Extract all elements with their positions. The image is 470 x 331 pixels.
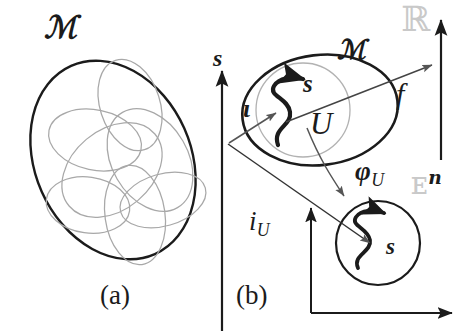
panel-b-caption: (b) [236, 282, 267, 309]
panel-b-f-label: f [396, 79, 404, 109]
panel-b-R-label: ℝ [401, 2, 430, 37]
panel-b-phiU-label: φU [355, 158, 384, 190]
panel-b-section-curve [273, 78, 303, 145]
phi-glyph: φ [355, 156, 371, 186]
panel-b-local-section-curve [355, 211, 384, 268]
panel-b-local-section-label: s [386, 235, 395, 258]
phi-subscript: U [371, 170, 384, 190]
diagram-vector-layer [0, 0, 470, 331]
euclidean-glyph: ᴇ [411, 165, 428, 201]
i-glyph: i [249, 206, 257, 236]
euclidean-superscript: n [428, 167, 442, 188]
panel-b-iota-label: ι [243, 96, 250, 122]
panel-b-chart-image-circle [336, 201, 420, 285]
figure-canvas: ℳ (a) s ℳ s ι U f ℝ φU ᴇn iU s (b) [0, 0, 470, 331]
i-subscript: U [257, 220, 270, 240]
panel-b-iota-arrow [229, 113, 276, 143]
panel-b-iU-label: iU [249, 208, 270, 240]
panel-a-coordinate-patches [43, 51, 213, 269]
panel-a-manifold-outline [0, 34, 226, 286]
panel-b-euclidean-axes [311, 208, 452, 313]
panel-b-manifold-label: ℳ [337, 36, 366, 63]
panel-b-section-label: s [303, 71, 313, 96]
panel-a-manifold-label: ℳ [44, 12, 77, 43]
panel-b-neighborhood-label: U [310, 108, 332, 139]
panel-a-caption: (a) [100, 282, 130, 309]
panel-b-s-axis-label: s [213, 46, 222, 70]
panel-b-euclidean-label: ᴇn [411, 168, 442, 199]
